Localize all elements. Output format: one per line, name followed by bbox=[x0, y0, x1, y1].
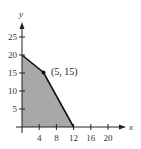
vertex-point bbox=[42, 71, 46, 75]
y-tick-label: 5 bbox=[13, 104, 18, 114]
x-tick-label: 12 bbox=[69, 133, 78, 143]
y-axis-label: y bbox=[18, 9, 23, 19]
feasible-region-chart: y x 5 10 15 20 25 4 8 12 16 20 (5, 15) bbox=[0, 0, 141, 149]
y-tick-label: 25 bbox=[8, 32, 18, 42]
y-tick-label: 20 bbox=[8, 50, 18, 60]
vertex-annotation: (5, 15) bbox=[51, 66, 78, 78]
x-axis-arrow-icon bbox=[119, 125, 126, 130]
x-tick-label: 4 bbox=[37, 133, 42, 143]
y-axis-arrow-icon bbox=[20, 22, 25, 29]
x-tick-label: 8 bbox=[54, 133, 59, 143]
x-tick-label: 20 bbox=[104, 133, 114, 143]
x-tick-label: 16 bbox=[86, 133, 96, 143]
y-tick-label: 15 bbox=[8, 68, 18, 78]
y-tick-label: 10 bbox=[8, 86, 18, 96]
x-axis-label: x bbox=[128, 122, 133, 132]
